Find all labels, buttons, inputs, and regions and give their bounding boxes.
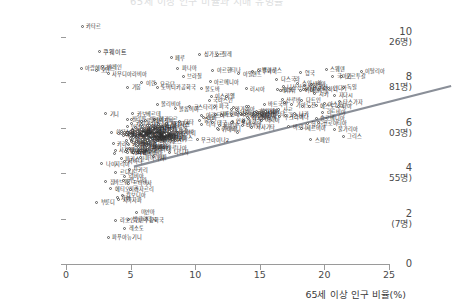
data-point: [131, 112, 134, 115]
data-point: [209, 80, 212, 83]
data-point: [333, 94, 336, 97]
data-point: [218, 124, 221, 127]
data-point-label: 기니: [110, 112, 120, 118]
data-point: [110, 131, 113, 134]
data-point: [287, 125, 290, 128]
data-point: [200, 123, 203, 126]
data-point: [170, 129, 173, 132]
data-point: [81, 25, 84, 28]
data-point: [323, 102, 326, 105]
page-title-strip: 65세 이상 인구 비율과 치매 유병률: [0, 0, 412, 12]
data-point: [104, 112, 107, 115]
data-point-label: 카타르: [86, 24, 101, 30]
data-point-label: 쿠웨이트: [103, 49, 127, 55]
data-point: [198, 53, 201, 56]
data-point: [140, 81, 143, 84]
data-point: [315, 117, 318, 120]
data-point: [241, 124, 244, 127]
scatter-plot-area: 카타르쿠웨이트아랍에미리트바레인오만사우디아라비아페루싱가포르칠레파나마브라질아…: [66, 14, 389, 264]
data-point: [290, 103, 293, 106]
data-point: [236, 131, 239, 134]
data-point: [333, 128, 336, 131]
data-point-label: 벨라루스: [262, 69, 282, 75]
data-point: [302, 88, 305, 91]
x-axis-title: 65세 이상 인구 비율(%): [305, 287, 406, 301]
data-point-label: 독일: [347, 86, 357, 92]
x-tick-label: 5: [128, 269, 134, 280]
data-point: [123, 227, 126, 230]
data-point-label: 스웨덴: [330, 67, 345, 73]
data-point: [98, 50, 101, 53]
data-point: [146, 146, 149, 149]
data-point-label: 볼리비아: [161, 103, 181, 109]
data-point-label: 칠레: [222, 53, 232, 59]
data-point-label: 하아다카: [152, 145, 172, 151]
data-point-label: 타자자: [307, 87, 322, 93]
data-point: [198, 119, 201, 122]
data-point-label: 국라스인: [213, 98, 233, 104]
data-point-label: 레소토: [129, 226, 144, 232]
data-point-label: 다아: [342, 104, 352, 110]
page-title: 65세 이상 인구 비율과 치매 유병률: [130, 0, 284, 8]
data-point-label: 카도니라: [128, 179, 148, 185]
data-point-label: 자아: [121, 196, 131, 202]
data-point-label: 콜롬비아: [179, 107, 199, 113]
data-point: [308, 105, 311, 108]
data-point-label: 아스르: [328, 102, 343, 108]
data-point: [135, 211, 138, 214]
data-point-label: 크로아티아: [323, 121, 348, 127]
x-tick-label: 25: [383, 269, 395, 280]
data-point-label: 페루: [175, 56, 185, 62]
data-point: [107, 236, 110, 239]
data-point-label: 도미니카공화국: [161, 86, 195, 92]
data-point: [109, 187, 112, 190]
data-point-label: 나이지리아: [106, 162, 131, 168]
data-point-label: 파마나사: [145, 156, 165, 162]
data-point-label: 파푸아뉴기니: [112, 236, 141, 242]
data-point-label: 다스국라: [281, 77, 301, 83]
data-point: [211, 69, 214, 72]
data-point-label: 가봉: [132, 86, 142, 92]
data-point: [331, 75, 334, 78]
data-point-label: 몰도바: [205, 87, 220, 93]
data-point-label: 파국: [219, 105, 229, 111]
data-point-label: 불가리아: [338, 128, 358, 134]
data-point-label: 싱가포르: [204, 53, 224, 59]
data-point-label: 하카: [284, 88, 294, 94]
data-point: [126, 118, 129, 121]
data-point: [95, 201, 98, 204]
data-point-label: 미얀마: [141, 211, 156, 217]
data-point-label: 스자르리: [134, 187, 154, 193]
data-point-label: 아르메니아: [214, 80, 239, 86]
data-point-label: 스페인: [315, 138, 330, 144]
data-point-label: 나도타라: [252, 116, 272, 122]
data-point-label: 라오인민민주공화국: [120, 219, 164, 225]
data-point-label: 브라질: [187, 74, 202, 80]
data-point-label: 그리스: [347, 134, 362, 140]
data-point-label: 가아도산: [296, 103, 316, 109]
x-tick-label: 20: [318, 269, 330, 280]
data-point: [126, 125, 129, 128]
data-point: [309, 138, 312, 141]
data-point: [213, 105, 216, 108]
data-point: [200, 87, 203, 90]
data-point: [279, 89, 282, 92]
data-point: [129, 134, 132, 137]
data-point: [107, 72, 110, 75]
data-point: [112, 142, 115, 145]
data-point-label: 파나마: [182, 66, 197, 72]
data-point-label: 사우디아라비아: [112, 72, 146, 78]
data-point-label: 산르: [283, 108, 293, 114]
data-point: [337, 105, 340, 108]
data-point-label: 국아가: [337, 74, 352, 80]
data-point: [236, 111, 239, 114]
data-point-label: 타마: [155, 137, 165, 143]
data-point-label: 니아니: [246, 124, 261, 130]
data-point: [275, 78, 278, 81]
data-point-label: 트리바: [169, 133, 184, 139]
data-point: [299, 71, 302, 74]
data-point-label: 사바나: [128, 159, 143, 165]
data-point: [208, 99, 211, 102]
x-tick-label: 0: [63, 269, 69, 280]
data-point: [126, 86, 129, 89]
